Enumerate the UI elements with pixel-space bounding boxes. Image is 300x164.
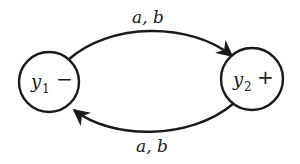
state-y2: y 2 + — [221, 48, 283, 110]
transition-label-bottom: a, b — [136, 136, 168, 156]
transition-label-top: a, b — [132, 7, 164, 27]
automaton-diagram: a, b a, b y 1 − y 2 + — [0, 0, 300, 164]
transition-arrow-y1-to-y2 — [68, 31, 232, 60]
state-subscript: 1 — [42, 82, 50, 96]
state-y1: y 1 − — [19, 52, 79, 112]
state-name: y — [232, 69, 244, 90]
state-subscript: 2 — [244, 80, 252, 94]
state-name: y — [30, 71, 42, 92]
final-marker: + — [257, 65, 274, 89]
transition-arrow-y2-to-y1 — [74, 104, 233, 132]
start-marker: − — [56, 67, 73, 91]
